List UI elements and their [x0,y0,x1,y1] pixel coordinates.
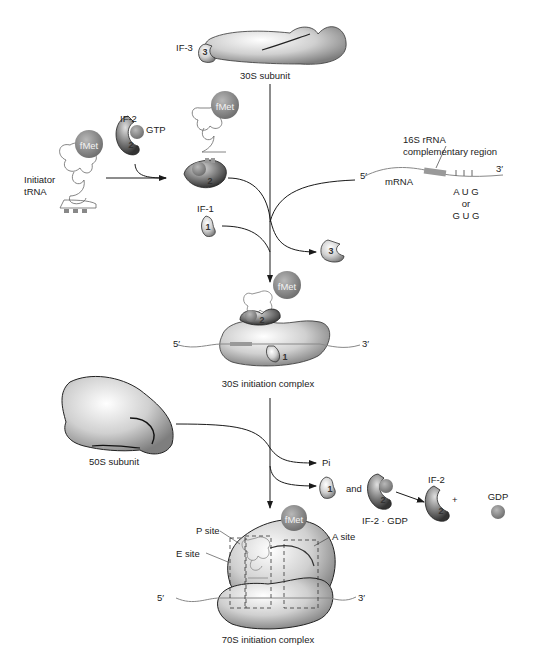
arrow-if2gdp-dissociation [396,492,424,502]
a-site-label: A site [332,531,355,542]
product-if2-shape [425,486,449,521]
fmet-label-70s: fMet [285,514,303,525]
plus-sign: + [452,494,458,505]
70s-initiation-complex-label: 70S initiation complex [222,634,314,645]
gdp-label: GDP [488,491,509,502]
if2-label: IF-2 [120,113,137,124]
if2-gdp-label: IF-2 · GDP [362,515,408,526]
50s-subunit-shape [62,376,173,453]
released-if3-number: 3 [328,246,333,256]
30s-complex-5prime: 5′ [173,338,180,349]
product-if2gdp-number: 2 [380,495,385,505]
30s-complex-3prime: 3′ [362,338,369,349]
arrow-if2-binding [135,164,166,178]
trna-anticodon [64,209,87,213]
complementary-region-label-1: 16S rRNA [403,134,446,145]
p-site-label: P site [196,525,220,536]
mrna-label: mRNA [385,176,413,187]
30s-initiation-complex-label: 30S initiation complex [222,378,314,389]
70s-complex-5prime: 5′ [157,592,164,603]
complementary-region-label-2: complementary region [403,146,497,157]
arrow-if1-release [270,466,316,486]
arrow-50s-to-main [176,424,316,463]
30s-complex-if2-number: 2 [259,315,264,325]
30s-subunit-shape [205,27,346,65]
product-if2-label: IF-2 [428,474,445,485]
fmet-label-initiator: fMet [80,140,98,151]
arrow-if3-release [270,218,316,252]
mrna-3prime: 3′ [496,163,503,174]
if1-label: IF-1 [197,203,214,214]
30s-subunit-label: 30S subunit [240,70,290,81]
if3-label: IF-3 [176,42,193,53]
and-label: and [346,483,362,494]
if2-bound-number: 2 [207,176,212,186]
70s-complex-3prime: 3′ [358,592,365,603]
mrna-5prime: 5′ [360,170,367,181]
if3-number: 3 [202,47,207,57]
arrow-mrna-to-main [270,180,355,222]
product-if1-number: 1 [327,484,332,494]
diagram-canvas [0,0,536,658]
gtp-label: GTP [146,124,166,135]
arrow-bound-to-main [228,178,270,218]
if1-number: 1 [205,222,210,232]
50s-subunit-label: 50S subunit [89,456,139,467]
codon-gug: G U G [453,210,480,221]
gdp-ball [491,505,505,519]
arrow-if1-to-main [222,226,270,252]
if2-bound-shape [184,158,226,188]
if2-number: 2 [128,140,133,150]
fmet-label-30s: fMet [278,281,296,292]
product-if2-number: 2 [438,506,443,516]
30s-complex-body [220,309,330,366]
initiator-trna-label-1: Initiator [24,174,55,185]
e-site-label: E site [176,548,200,559]
pi-label: Pi [322,457,330,468]
codon-or: or [462,198,470,209]
initiator-trna-label-2: tRNA [24,186,47,197]
fmet-label-bound: fMet [216,101,234,112]
codon-aug: A U G [453,186,478,197]
30s-complex-if1-number: 1 [282,352,287,362]
